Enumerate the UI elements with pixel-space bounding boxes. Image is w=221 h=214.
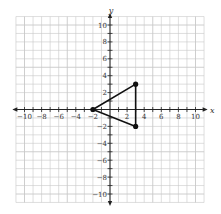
arrow-left-icon xyxy=(12,107,17,111)
x-tick-label: −4 xyxy=(71,113,82,121)
y-tick-label: −2 xyxy=(97,123,107,131)
y-tick-label: −4 xyxy=(97,140,108,148)
y-tick-label: 4 xyxy=(103,72,108,80)
x-tick-label: −2 xyxy=(88,113,98,121)
y-tick-label: 2 xyxy=(103,89,107,97)
y-tick-label: −8 xyxy=(97,174,107,182)
y-tick-label: −10 xyxy=(92,191,107,199)
vertex-point xyxy=(133,124,138,129)
y-tick-label: 6 xyxy=(103,55,108,63)
x-tick-label: 4 xyxy=(142,113,147,121)
coordinate-plane: −10−8−6−4−2246810−10−8−6−4−2246810 x y xyxy=(0,0,221,214)
y-tick-label: 8 xyxy=(103,38,107,46)
y-tick-label: 10 xyxy=(98,22,107,30)
y-tick-label: −6 xyxy=(97,157,108,165)
y-axis-label: y xyxy=(108,6,114,15)
x-tick-label: 6 xyxy=(159,113,164,121)
x-tick-label: −6 xyxy=(54,113,65,121)
x-tick-label: −10 xyxy=(17,113,32,121)
triangle xyxy=(90,82,138,129)
x-tick-label: 10 xyxy=(191,113,200,121)
vertex-point xyxy=(90,107,95,112)
x-tick-label: 8 xyxy=(176,113,180,121)
vertex-point xyxy=(133,82,138,87)
x-axis-label: x xyxy=(210,106,215,115)
arrow-right-icon xyxy=(203,107,208,111)
arrow-down-icon xyxy=(108,201,112,206)
x-tick-label: −8 xyxy=(36,113,46,121)
x-tick-label: 2 xyxy=(125,113,129,121)
